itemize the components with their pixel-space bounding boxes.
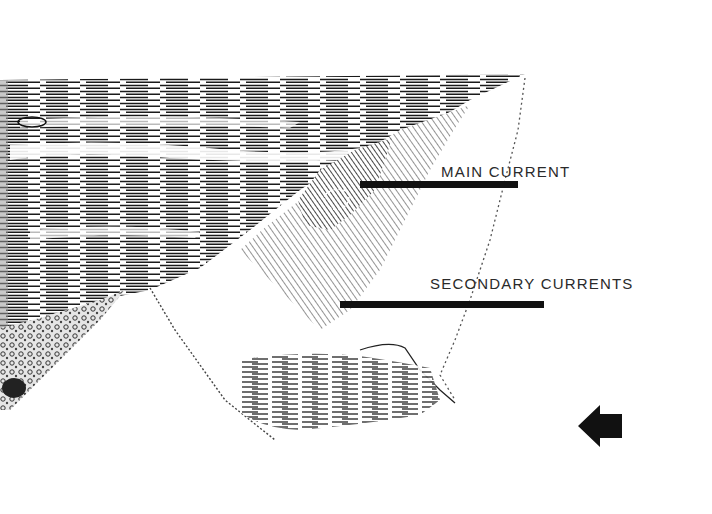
arrow-left-icon [578,403,624,449]
sand-bar [240,354,440,430]
secondary-currents-pointer-line [340,301,544,308]
main-current-pointer-line [360,181,518,188]
secondary-currents-label: SECONDARY CURRENTS [430,275,634,292]
main-current-label: MAIN CURRENT [441,163,570,180]
